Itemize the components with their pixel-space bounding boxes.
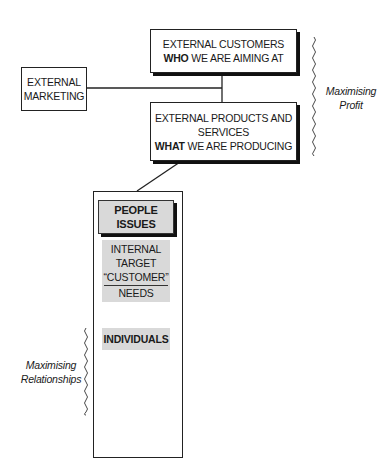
- internal-line2: TARGET: [116, 256, 157, 270]
- products-people-connector: [137, 162, 180, 191]
- external-marketing-line2: MARKETING: [24, 89, 85, 103]
- what-rest: WE ARE PRODUCING: [185, 140, 292, 152]
- internal-line3: “CUSTOMER”: [104, 270, 169, 286]
- profit-line2: Profit: [320, 98, 382, 112]
- internal-line4: NEEDS: [118, 286, 153, 300]
- external-products-box: EXTERNAL PRODUCTS AND SERVICES WHAT WE A…: [150, 102, 297, 161]
- maximising-relationships-label: Maximising Relationships: [20, 358, 82, 386]
- maximising-profit-label: Maximising Profit: [320, 84, 382, 112]
- who-keyword: WHO: [163, 52, 188, 64]
- relationships-line2: Relationships: [20, 372, 82, 386]
- internal-line1: INTERNAL: [111, 242, 161, 256]
- who-rest: WE ARE AIMING AT: [189, 52, 284, 64]
- external-marketing-box: EXTERNAL MARKETING: [21, 67, 87, 111]
- external-products-line3: WHAT WE ARE PRODUCING: [155, 139, 292, 153]
- profit-brace-icon: [313, 37, 316, 156]
- external-customers-title: EXTERNAL CUSTOMERS: [163, 37, 284, 51]
- relationships-brace-icon: [85, 328, 88, 415]
- external-products-line1: EXTERNAL PRODUCTS AND: [155, 111, 292, 125]
- external-customers-box: EXTERNAL CUSTOMERS WHO WE ARE AIMING AT: [150, 29, 297, 73]
- people-issues-line2: ISSUES: [116, 217, 155, 231]
- external-marketing-line1: EXTERNAL: [27, 75, 81, 89]
- individuals-box: INDIVIDUALS: [102, 328, 170, 350]
- people-issues-line1: PEOPLE: [114, 203, 157, 217]
- external-products-line2: SERVICES: [198, 125, 249, 139]
- external-customers-subtitle: WHO WE ARE AIMING AT: [163, 51, 283, 65]
- profit-line1: Maximising: [320, 84, 382, 98]
- relationships-line1: Maximising: [20, 358, 82, 372]
- individuals-label: INDIVIDUALS: [104, 332, 169, 346]
- people-issues-box: PEOPLE ISSUES: [98, 200, 174, 234]
- what-keyword: WHAT: [155, 140, 185, 152]
- internal-target-box: INTERNAL TARGET “CUSTOMER” NEEDS: [102, 240, 170, 302]
